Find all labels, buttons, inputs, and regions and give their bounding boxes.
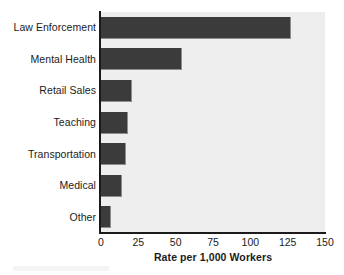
x-axis-tick-label: 125: [279, 236, 297, 248]
x-axis-tick-label: 100: [242, 236, 260, 248]
x-axis-tick-labels: 0255075100125150: [0, 236, 344, 250]
bar: [101, 17, 291, 39]
y-axis-category-labels: Law EnforcementMental HealthRetail Sales…: [0, 12, 96, 233]
bar: [101, 175, 122, 197]
x-axis-tick-label: 150: [316, 236, 334, 248]
y-axis-category-label: Transportation: [0, 149, 96, 160]
bar: [101, 206, 111, 228]
bar: [101, 112, 128, 134]
y-axis-line: [99, 11, 101, 234]
y-axis-category-label: Retail Sales: [0, 85, 96, 96]
y-axis-category-label: Teaching: [0, 117, 96, 128]
x-axis-line: [99, 232, 326, 234]
bar-chart-figure: Law EnforcementMental HealthRetail Sales…: [0, 0, 344, 275]
bar: [101, 80, 132, 102]
x-axis-tick-label: 75: [207, 236, 219, 248]
y-axis-category-label: Law Enforcement: [0, 22, 96, 33]
x-axis-tick-label: 25: [132, 236, 144, 248]
plot-area: [101, 12, 325, 233]
x-axis-tick-label: 50: [170, 236, 182, 248]
x-axis-title: Rate per 1,000 Workers: [101, 251, 325, 263]
y-axis-category-label: Other: [0, 212, 96, 223]
scan-artifact: [13, 266, 109, 271]
y-axis-category-label: Medical: [0, 180, 96, 191]
x-axis-tick-label: 0: [98, 236, 104, 248]
y-axis-category-label: Mental Health: [0, 54, 96, 65]
bar: [101, 143, 126, 165]
bar: [101, 48, 182, 70]
